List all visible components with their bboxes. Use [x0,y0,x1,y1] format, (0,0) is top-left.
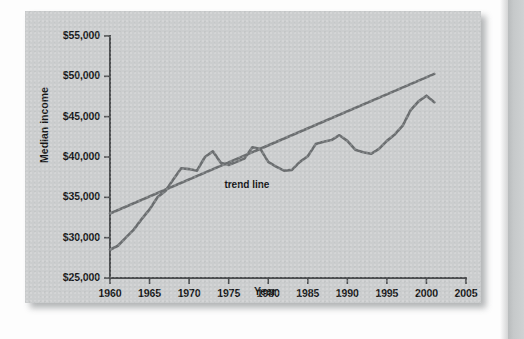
trend-line-annotation: trend line [224,179,269,190]
y-tick-label: $50,000 [25,69,100,81]
y-tick-label: $40,000 [25,150,100,162]
figure-panel: $25,000$30,000$35,000$40,000$45,000$50,0… [25,11,481,303]
y-tick-label: $35,000 [25,190,100,202]
chart-axes [110,36,466,278]
y-tick-label: $30,000 [25,231,100,243]
median-income-line-chart: $25,000$30,000$35,000$40,000$45,000$50,0… [25,11,481,303]
y-tick-label: $55,000 [25,29,100,41]
median-income-series-path [110,96,434,250]
scan-page: $25,000$30,000$35,000$40,000$45,000$50,0… [0,0,524,339]
x-axis-title: Year [205,285,325,297]
y-axis-title: Median income [38,65,50,185]
x-tick-label: 2005 [441,287,491,299]
y-tick-label: $45,000 [25,110,100,122]
y-tick-label: $25,000 [25,271,100,283]
adjacent-page-strip [508,0,524,339]
